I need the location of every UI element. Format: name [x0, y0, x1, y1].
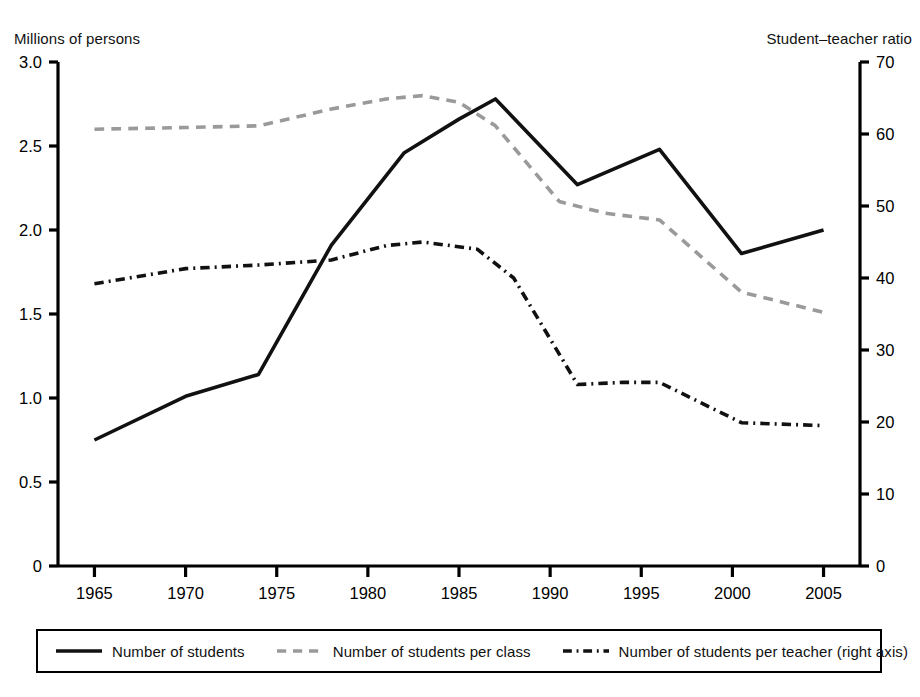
svg-text:2005: 2005 [805, 584, 842, 602]
plot-area: 00.51.01.52.02.53.0010203040506070196519… [0, 0, 920, 697]
svg-text:30: 30 [876, 341, 894, 359]
legend-item: Number of students per teacher (right ax… [563, 643, 908, 660]
legend-label: Number of students per teacher (right ax… [619, 643, 908, 660]
svg-text:20: 20 [876, 413, 894, 431]
legend-label: Number of students per class [333, 643, 531, 660]
svg-text:1985: 1985 [441, 584, 478, 602]
legend-item: Number of students per class [277, 643, 531, 660]
chart-legend: Number of students Number of students pe… [36, 629, 882, 673]
svg-text:1990: 1990 [532, 584, 569, 602]
legend-swatch-dashdot [563, 644, 609, 658]
svg-text:70: 70 [876, 53, 894, 71]
svg-text:10: 10 [876, 485, 894, 503]
axes [58, 62, 860, 566]
legend-item: Number of students [56, 643, 245, 660]
svg-text:1995: 1995 [623, 584, 660, 602]
svg-text:1975: 1975 [258, 584, 295, 602]
tick-labels: 00.51.01.52.02.53.0010203040506070196519… [19, 53, 894, 602]
svg-text:60: 60 [876, 125, 894, 143]
legend-swatch-dashed [277, 644, 323, 658]
tick-marks [49, 62, 869, 577]
svg-text:0: 0 [33, 557, 42, 575]
legend-swatch-solid [56, 644, 102, 658]
svg-text:0.5: 0.5 [19, 473, 42, 491]
svg-text:50: 50 [876, 197, 894, 215]
svg-text:0: 0 [876, 557, 885, 575]
legend-label: Number of students [112, 643, 245, 660]
svg-text:2000: 2000 [714, 584, 751, 602]
svg-text:40: 40 [876, 269, 894, 287]
chart-figure: Millions of persons Student–teacher rati… [0, 0, 920, 697]
svg-text:3.0: 3.0 [19, 53, 42, 71]
svg-text:2.5: 2.5 [19, 137, 42, 155]
svg-text:1.5: 1.5 [19, 305, 42, 323]
svg-text:2.0: 2.0 [19, 221, 42, 239]
svg-text:1970: 1970 [167, 584, 204, 602]
svg-text:1980: 1980 [350, 584, 387, 602]
svg-text:1.0: 1.0 [19, 389, 42, 407]
svg-text:1965: 1965 [76, 584, 113, 602]
data-series [94, 96, 823, 440]
series-line [94, 96, 823, 313]
